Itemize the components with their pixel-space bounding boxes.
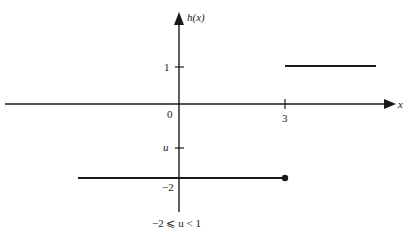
origin-label: 0 xyxy=(167,108,173,120)
x-axis-label: x xyxy=(397,98,403,110)
y-axis-arrow-icon xyxy=(174,12,184,25)
step-function-diagram: x h(x) 0 1 u −2 3 −2 ⩽ u < 1 xyxy=(0,0,403,237)
y-tick-label-neg-2: −2 xyxy=(162,181,174,193)
y-tick-label-1: 1 xyxy=(164,61,170,73)
closed-endpoint-dot-icon xyxy=(282,175,288,181)
x-tick-label-3: 3 xyxy=(282,112,288,124)
y-axis-label: h(x) xyxy=(187,11,205,24)
y-tick-label-u: u xyxy=(163,141,169,153)
x-axis-arrow-icon xyxy=(384,99,396,109)
condition-caption: −2 ⩽ u < 1 xyxy=(152,217,201,229)
